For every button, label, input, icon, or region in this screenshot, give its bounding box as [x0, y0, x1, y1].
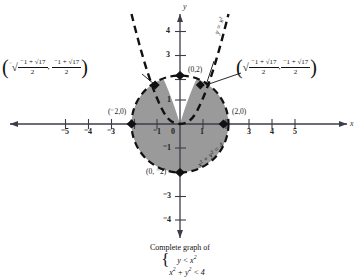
caption-heading: Complete graph of	[110, 243, 250, 254]
y-tick-label--1: ⁻1	[163, 144, 171, 152]
y-tick-label-1: 1	[167, 96, 171, 104]
point-label-0-neg2: (0, ⁻2)	[146, 168, 166, 176]
y-axis-arrow-up	[177, 14, 183, 22]
left-comma: ,	[48, 62, 50, 71]
y-tick-label--4: ⁻4	[163, 216, 171, 224]
caption-system: { y < x2 x2 + y2 < 4	[167, 254, 205, 279]
y-tick-label--3: ⁻3	[163, 192, 171, 200]
left-x-fraction: ⁻1 + √172	[18, 58, 48, 77]
left-open-paren: (	[2, 56, 9, 78]
caption-inequality-1: y < x2	[167, 254, 205, 266]
x-tick-label-5: 5	[293, 128, 297, 136]
y-axis-arrow-down	[177, 230, 183, 238]
intersection-label-right: (√⁻1 + √172,⁻1 + √172)	[236, 58, 317, 77]
point-label-neg2-0: (⁻2,0)	[108, 108, 126, 116]
left-x-radical: √	[12, 62, 18, 73]
x-tick-label--1: ⁻1	[153, 128, 161, 136]
y-tick-label-4: 4	[166, 27, 170, 35]
x-tick-label--5: ⁻5	[61, 128, 69, 136]
right-x-radical: √	[243, 62, 249, 73]
x-tick-label-0: 0	[171, 128, 175, 136]
right-open-paren: (	[236, 56, 243, 78]
x-tick-label--4: ⁻4	[84, 128, 92, 136]
x-tick-label--3: ⁻3	[107, 128, 115, 136]
left-y-fraction: ⁻1 + √172	[52, 58, 82, 77]
right-y-fraction: ⁻1 + √172	[281, 58, 311, 77]
right-x-denominator: 2	[249, 68, 279, 77]
figure-caption: Complete graph of { y < x2 x2 + y2 < 4	[110, 243, 250, 279]
left-x-numerator: ⁻1 + √17	[18, 58, 48, 68]
right-x-numerator: ⁻1 + √17	[249, 58, 279, 68]
radical-icon: √	[12, 61, 18, 73]
right-x-fraction: ⁻1 + √172	[249, 58, 279, 77]
radical-icon: √	[243, 61, 249, 73]
x-axis-arrow-left	[10, 121, 18, 127]
right-close-paren: )	[310, 56, 317, 78]
y-tick-label-3: 3	[166, 51, 170, 59]
point-label-2-0: (2,0)	[232, 108, 246, 116]
y-axis-label: y	[183, 3, 187, 11]
caption-inequality-2: x2 + y2 < 4	[167, 266, 205, 278]
point-label-0-2: (0,2)	[188, 66, 202, 74]
intersection-label-left: (⁻√⁻1 + √172, ⁻1 + √172)	[2, 58, 88, 77]
x-tick-label-3: 3	[247, 128, 251, 136]
x-axis-label: x	[350, 120, 354, 128]
right-y-denominator: 2	[281, 68, 311, 77]
right-y-numerator: ⁻1 + √17	[281, 58, 311, 68]
system-brace: {	[161, 253, 169, 267]
left-y-numerator: ⁻1 + √17	[52, 58, 82, 68]
left-close-paren: )	[81, 56, 88, 78]
left-y-denominator: 2	[52, 68, 82, 77]
x-axis-arrow	[339, 121, 347, 127]
left-x-denominator: 2	[18, 68, 48, 77]
x-tick-label-4: 4	[270, 128, 274, 136]
x-tick-label-1: 1	[200, 128, 204, 136]
